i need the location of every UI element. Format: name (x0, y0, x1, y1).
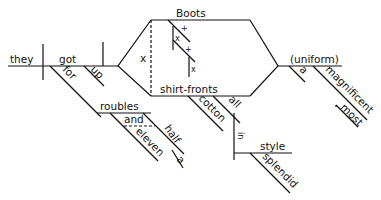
boots-x-2: x (191, 65, 196, 74)
word-half: half (162, 122, 183, 145)
boots-plus-1: + (181, 24, 188, 33)
word-roubles: roubles (100, 100, 139, 112)
word-cotton: cotton (197, 92, 229, 124)
word-they: they (10, 53, 33, 65)
sentence-diagram: they got up for roubles and eleven half … (0, 0, 381, 200)
conjunction-x: x (140, 52, 146, 64)
word-shirt-fronts: shirt-fronts (160, 83, 218, 95)
word-in: in (236, 132, 245, 139)
word-and: and (124, 113, 144, 125)
boots-plus-2: + (185, 45, 192, 54)
compound-fork-right (250, 20, 278, 96)
boots-x-1: x (175, 34, 180, 43)
word-style: style (260, 140, 285, 152)
word-boots: Boots (176, 7, 206, 19)
